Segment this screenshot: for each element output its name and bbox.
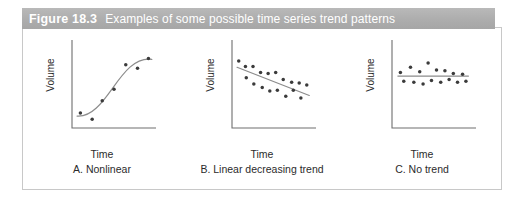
- chart-svg-a: [42, 34, 162, 146]
- plot-area-a: Volume: [22, 34, 182, 146]
- figure-title: Examples of some possible time series tr…: [105, 12, 395, 26]
- panel-caption-a: A. Nonlinear: [22, 163, 182, 175]
- data-point: [297, 81, 301, 85]
- data-point: [79, 111, 83, 115]
- data-point: [260, 86, 264, 90]
- panel-caption-b: B. Linear decreasing trend: [182, 163, 342, 175]
- data-point: [299, 96, 303, 100]
- data-point: [147, 57, 151, 61]
- figure-header-bar: Figure 18.3 Examples of some possible ti…: [22, 8, 495, 29]
- trend-line: [237, 67, 309, 95]
- data-points: [79, 57, 151, 121]
- data-point: [412, 80, 416, 84]
- data-point: [443, 69, 447, 73]
- data-point: [402, 80, 406, 84]
- data-points: [237, 59, 309, 99]
- data-point: [90, 117, 94, 121]
- chart-panel-c: Volume Time C. No trend: [342, 30, 502, 188]
- data-points: [399, 61, 468, 86]
- data-point: [452, 72, 456, 76]
- data-point: [461, 73, 465, 77]
- plot-area-b: Volume: [182, 34, 342, 146]
- data-point: [281, 78, 285, 82]
- data-point: [409, 66, 413, 70]
- data-point: [439, 80, 443, 84]
- data-point: [244, 65, 248, 69]
- figure-number-label: Figure 18.3: [29, 12, 97, 26]
- data-point: [399, 71, 403, 75]
- data-point: [464, 80, 468, 84]
- data-point: [430, 79, 434, 83]
- data-point: [136, 66, 140, 70]
- chart-panel-a: Volume Time A. Nonlinear: [22, 30, 182, 188]
- data-point: [112, 88, 116, 92]
- data-point: [274, 71, 278, 75]
- chart-svg-b: [202, 34, 322, 146]
- data-point: [456, 80, 460, 84]
- data-point: [100, 99, 104, 103]
- data-point: [245, 76, 249, 80]
- data-point: [290, 80, 294, 84]
- data-point: [292, 88, 296, 92]
- figure-panels-row: Volume Time A. Nonlinear Volume Time B. …: [22, 30, 502, 188]
- chart-axes: [232, 40, 316, 128]
- data-point: [266, 72, 270, 76]
- chart-axes: [392, 40, 476, 128]
- x-axis-label-b: Time: [182, 148, 342, 160]
- x-axis-label-a: Time: [22, 148, 182, 160]
- data-point: [276, 88, 280, 92]
- data-point: [259, 71, 263, 75]
- data-point: [426, 61, 430, 65]
- plot-area-c: Volume: [342, 34, 502, 146]
- data-point: [447, 78, 451, 82]
- chart-svg-c: [362, 34, 482, 146]
- figure-container: Figure 18.3 Examples of some possible ti…: [0, 0, 530, 209]
- panel-caption-c: C. No trend: [342, 163, 502, 175]
- chart-panel-b: Volume Time B. Linear decreasing trend: [182, 30, 342, 188]
- data-point: [418, 70, 422, 74]
- data-point: [435, 68, 439, 72]
- data-point: [305, 83, 309, 87]
- x-axis-label-c: Time: [342, 148, 502, 160]
- data-point: [268, 89, 272, 93]
- data-point: [421, 82, 425, 86]
- data-point: [252, 82, 256, 86]
- data-point: [284, 95, 288, 99]
- data-point: [251, 65, 255, 69]
- data-point: [124, 63, 128, 67]
- data-point: [237, 59, 241, 63]
